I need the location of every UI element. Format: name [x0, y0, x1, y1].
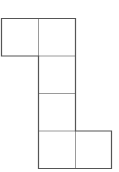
- net-face-face-5: [39, 131, 76, 168]
- net-face-face-6: [76, 131, 113, 168]
- net-face-face-1: [2, 19, 39, 56]
- net-face-face-4: [39, 94, 76, 132]
- net-face-face-2: [39, 19, 76, 56]
- net-face-face-3: [39, 56, 76, 94]
- cube-net-diagram: [0, 0, 119, 172]
